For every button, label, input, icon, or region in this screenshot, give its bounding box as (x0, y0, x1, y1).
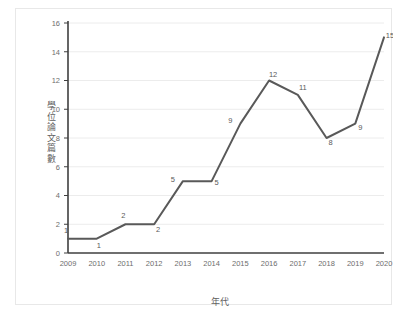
data-point-label: 5 (215, 178, 219, 187)
data-point-label: 8 (328, 138, 332, 147)
data-point-label: 9 (358, 123, 362, 132)
y-tick-label: 12 (52, 76, 60, 85)
x-tick-label: 2011 (117, 259, 133, 268)
x-tick-label: 2017 (289, 259, 306, 268)
y-tick-label: 2 (56, 220, 60, 229)
line-chart-plot: 0246810121416 20092010201120122013201420… (16, 9, 393, 306)
data-point-label: 11 (299, 83, 307, 92)
y-axis-tick-labels-group: 0246810121416 (52, 19, 60, 258)
y-tick-label: 16 (52, 19, 60, 28)
y-tick-label: 10 (52, 105, 60, 114)
x-tick-label: 2016 (261, 259, 278, 268)
chart-container: 學位論文篇數 年代 0246810121416 2009201020112012… (15, 8, 392, 305)
gridlines-group (68, 23, 384, 224)
x-tick-label: 2013 (175, 259, 192, 268)
y-tick-label: 4 (56, 191, 60, 200)
data-point-label: 1 (64, 226, 68, 235)
data-point-labels-group: 112255912118915 (64, 31, 393, 249)
x-tick-label: 2018 (318, 259, 335, 268)
y-tick-label: 14 (52, 48, 60, 57)
x-tick-label: 2014 (203, 259, 220, 268)
y-tick-label: 6 (56, 163, 60, 172)
data-point-label: 2 (121, 211, 125, 220)
y-tick-label: 0 (56, 249, 60, 258)
x-axis-tick-labels-group: 2009201020112012201320142015201620172018… (60, 259, 393, 268)
data-point-label: 2 (156, 225, 160, 234)
x-tick-label: 2012 (146, 259, 163, 268)
x-tick-label: 2009 (60, 259, 77, 268)
data-point-label: 1 (97, 241, 101, 250)
y-tick-label: 8 (56, 134, 60, 143)
x-tick-label: 2019 (347, 259, 364, 268)
data-point-label: 15 (386, 31, 393, 40)
data-point-label: 9 (228, 116, 232, 125)
x-tick-label: 2010 (88, 259, 105, 268)
x-tick-label: 2020 (376, 259, 393, 268)
data-point-label: 12 (269, 70, 277, 79)
x-tick-label: 2015 (232, 259, 249, 268)
data-point-label: 5 (171, 175, 175, 184)
